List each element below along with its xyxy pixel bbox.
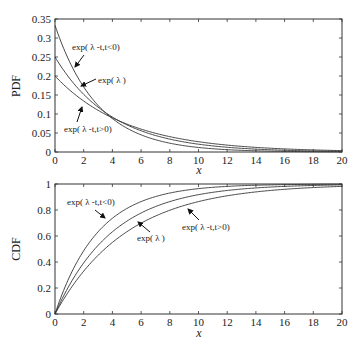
cdf-annotation-base: exp( λ ) bbox=[137, 233, 165, 243]
x-tick-label: 6 bbox=[138, 154, 144, 166]
pdf-curve-2 bbox=[55, 76, 342, 151]
y-tick-label: 0.35 bbox=[32, 13, 52, 25]
x-tick-label: 12 bbox=[222, 316, 233, 328]
y-tick-label: 0.6 bbox=[37, 230, 51, 242]
pdf-ylabel: PDF bbox=[9, 75, 23, 97]
x-tick-label: 2 bbox=[81, 154, 87, 166]
cdf-arrow-pos bbox=[188, 209, 199, 220]
x-tick-label: 18 bbox=[308, 154, 320, 166]
x-tick-label: 6 bbox=[138, 316, 144, 328]
x-tick-label: 20 bbox=[337, 154, 349, 166]
y-tick-label: 0.2 bbox=[37, 70, 51, 82]
cdf-arrow-neg bbox=[95, 210, 105, 218]
y-tick-label: 0.3 bbox=[37, 32, 51, 44]
y-tick-label: 0.4 bbox=[37, 256, 51, 268]
y-tick-label: 0 bbox=[46, 146, 52, 158]
y-tick-label: 0.25 bbox=[32, 51, 52, 63]
x-tick-label: 4 bbox=[110, 154, 116, 166]
pdf-annotation-base: exp( λ ) bbox=[98, 75, 126, 85]
cdf-arrow-base bbox=[138, 222, 150, 232]
x-tick-label: 20 bbox=[337, 316, 349, 328]
x-tick-label: 14 bbox=[250, 316, 262, 328]
pdf-curve-1 bbox=[55, 57, 342, 151]
pdf-annotation-pos: exp( λ -t,t>0) bbox=[64, 124, 112, 134]
cdf-annotation-pos: exp( λ -t,t>0) bbox=[182, 222, 230, 232]
figure: 0246810121416182000.050.10.150.20.250.30… bbox=[0, 0, 361, 358]
pdf-panel: 0246810121416182000.050.10.150.20.250.30… bbox=[9, 13, 348, 177]
y-tick-label: 0.15 bbox=[32, 89, 52, 101]
cdf-panel: 0246810121416182000.20.40.60.81 CDF x ex… bbox=[9, 178, 348, 340]
x-tick-label: 4 bbox=[110, 316, 116, 328]
pdf-arrow-neg bbox=[75, 55, 84, 67]
y-tick-label: 0.05 bbox=[32, 127, 52, 139]
y-tick-label: 0 bbox=[46, 308, 52, 320]
x-tick-label: 2 bbox=[81, 316, 87, 328]
y-tick-label: 0.1 bbox=[37, 108, 51, 120]
x-tick-label: 18 bbox=[308, 316, 320, 328]
y-tick-label: 1 bbox=[46, 178, 52, 190]
pdf-xlabel: x bbox=[195, 163, 202, 177]
pdf-arrow-base bbox=[81, 79, 96, 86]
x-tick-label: 16 bbox=[279, 316, 291, 328]
x-tick-label: 8 bbox=[167, 154, 173, 166]
cdf-ylabel: CDF bbox=[9, 237, 23, 261]
pdf-annotation-neg: exp( λ -t,t<0) bbox=[72, 42, 120, 52]
x-tick-label: 14 bbox=[250, 154, 262, 166]
x-tick-label: 12 bbox=[222, 154, 233, 166]
y-tick-label: 0.8 bbox=[37, 204, 51, 216]
x-tick-label: 0 bbox=[52, 316, 58, 328]
cdf-annotation-neg: exp( λ -t,t<0) bbox=[67, 197, 115, 207]
x-tick-label: 8 bbox=[167, 316, 173, 328]
x-tick-label: 16 bbox=[279, 154, 291, 166]
y-tick-label: 0.2 bbox=[37, 282, 51, 294]
pdf-arrow-pos bbox=[77, 107, 82, 122]
x-tick-label: 0 bbox=[52, 154, 58, 166]
cdf-xlabel: x bbox=[195, 326, 202, 340]
